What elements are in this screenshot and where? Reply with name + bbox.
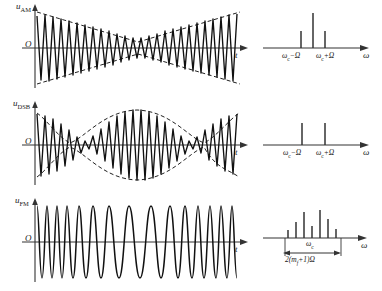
dsb-y-axis-arrow — [32, 101, 38, 108]
fm-waveform-svg — [0, 194, 255, 291]
dsb-tick-label-upper: ωc+Ω — [316, 149, 334, 159]
dsb-y-axis-label: uDSB — [13, 99, 30, 110]
am-x-axis-arrow — [240, 45, 248, 51]
dsb-tick-label-lower: ωc−Ω — [283, 149, 301, 159]
fm-bandwidth-label: 2(mf+1)Ω — [285, 256, 315, 266]
fm-x-axis-label: t — [235, 245, 238, 254]
am-tick-label-lower: ωc−Ω — [282, 52, 300, 62]
am-origin-label: O — [25, 40, 32, 49]
am-x-axis-label: t — [235, 51, 238, 60]
dsb-spectrum-plot: ωc−Ω ωc+Ω ω — [255, 97, 382, 194]
fm-omega-axis-label: ω — [361, 241, 367, 250]
dsb-time-domain-plot: uDSB O t — [0, 97, 255, 194]
fm-y-axis-arrow — [32, 198, 38, 205]
am-waveform-svg — [0, 0, 255, 97]
am-time-domain-plot: uAM O t — [0, 0, 255, 97]
dsb-origin-label: O — [25, 137, 32, 146]
fm-centre-frequency-label: ωc — [306, 240, 314, 250]
fm-time-domain-plot: uFM O t — [0, 194, 255, 291]
am-spectrum-svg — [255, 0, 382, 97]
fm-y-axis-label: uFM — [15, 196, 29, 207]
row-am: uAM O t ωc−Ω ωc+Ω ω — [0, 0, 382, 97]
am-spectrum-plot: ωc−Ω ωc+Ω ω — [255, 0, 382, 97]
modulation-comparison-figure: uAM O t ωc−Ω ωc+Ω ω — [0, 0, 382, 291]
row-dsb: uDSB O t ωc−Ω ωc+Ω ω — [0, 97, 382, 194]
dsb-omega-axis-label: ω — [363, 148, 369, 157]
am-y-axis-label: uAM — [16, 2, 31, 13]
fm-x-axis-arrow — [240, 239, 248, 245]
dsb-spectrum-svg — [255, 97, 382, 194]
dsb-x-axis-arrow — [240, 142, 248, 148]
fm-spectrum-plot: ωc 2(mf+1)Ω ω — [255, 194, 382, 291]
am-tick-label-upper: ωc+Ω — [316, 52, 334, 62]
dsb-x-axis-label: t — [235, 148, 238, 157]
fm-bandwidth-arrow-right — [334, 250, 341, 255]
row-fm: uFM O t — [0, 194, 382, 291]
am-omega-axis-label: ω — [363, 51, 369, 60]
am-y-axis-arrow — [32, 4, 38, 11]
fm-origin-label: O — [25, 234, 32, 243]
dsb-waveform-svg — [0, 97, 255, 194]
dsb-envelope-upper — [37, 110, 239, 143]
